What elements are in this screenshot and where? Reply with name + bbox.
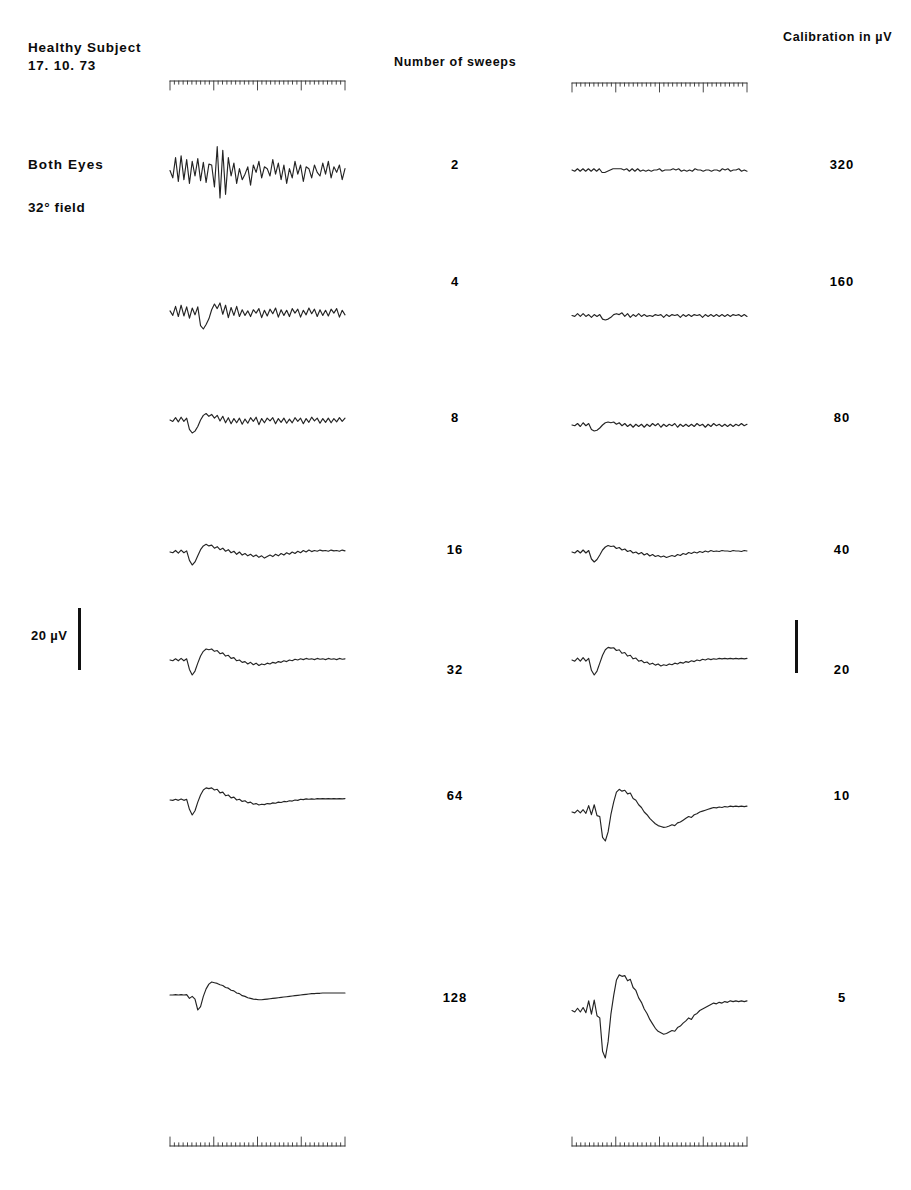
- waveform-right-64-sweeps: [572, 775, 747, 849]
- waveform-path: [170, 982, 345, 1010]
- waveform-path: [170, 544, 345, 565]
- amplitude-scale-label: 20 µV: [31, 628, 67, 643]
- waveform-path: [572, 546, 747, 563]
- sweep-count-value: 2: [425, 157, 485, 172]
- waveform-path: [170, 649, 345, 675]
- waveform-left-64-sweeps: [170, 777, 345, 823]
- sweep-count-value: 64: [425, 788, 485, 803]
- sweep-count-value: 8: [425, 410, 485, 425]
- calibration-value: 10: [812, 788, 872, 803]
- amplitude-scale-bar-left: [78, 608, 81, 670]
- waveform-left-16-sweeps: [170, 531, 345, 573]
- bottom-left-ruler: [170, 1133, 345, 1147]
- sweep-count-value: 128: [425, 990, 485, 1005]
- waveform-left-4-sweeps: [170, 287, 345, 337]
- visual-field-label: 32° field: [28, 200, 85, 215]
- subject-title: Healthy Subject: [28, 40, 141, 55]
- waveform-right-128-sweeps: [572, 955, 747, 1066]
- sweep-count-value: 4: [425, 274, 485, 289]
- sweep-count-value: 32: [425, 662, 485, 677]
- waveform-left-128-sweeps: [170, 972, 345, 1018]
- waveform-path: [572, 169, 747, 173]
- number-of-sweeps-header: Number of sweeps: [394, 55, 516, 69]
- waveform-path: [170, 788, 345, 815]
- waveform-path: [170, 146, 345, 197]
- waveform-path: [572, 312, 747, 319]
- waveform-path: [572, 974, 747, 1057]
- waveform-path: [170, 303, 345, 329]
- sweep-count-value: 16: [425, 542, 485, 557]
- vep-figure: Healthy Subject 17. 10. 73 Both Eyes 32°…: [0, 0, 911, 1190]
- waveform-right-8-sweeps: [572, 411, 747, 439]
- waveform-right-4-sweeps: [572, 303, 747, 328]
- top-left-ruler: [170, 80, 345, 94]
- calibration-value: 40: [812, 542, 872, 557]
- waveform-left-32-sweeps: [170, 637, 345, 683]
- waveform-left-8-sweeps: [170, 399, 345, 441]
- waveform-path: [170, 414, 345, 434]
- waveform-path: [572, 422, 747, 431]
- calibration-value: 20: [812, 662, 872, 677]
- calibration-header: Calibration in µV: [783, 30, 892, 44]
- calibration-value: 80: [812, 410, 872, 425]
- both-eyes-label: Both Eyes: [28, 157, 104, 172]
- calibration-value: 160: [812, 274, 872, 289]
- calibration-value: 5: [812, 990, 872, 1005]
- waveform-path: [572, 789, 747, 841]
- waveform-right-2-sweeps: [572, 158, 747, 182]
- subject-date: 17. 10. 73: [28, 58, 96, 73]
- calibration-value: 320: [812, 157, 872, 172]
- amplitude-scale-bar-right: [795, 620, 798, 673]
- top-right-ruler: [572, 82, 747, 96]
- waveform-right-16-sweeps: [572, 534, 747, 570]
- waveform-path: [572, 647, 747, 675]
- bottom-right-ruler: [572, 1133, 747, 1147]
- waveform-left-2-sweeps: [170, 135, 345, 206]
- waveform-right-32-sweeps: [572, 637, 747, 683]
